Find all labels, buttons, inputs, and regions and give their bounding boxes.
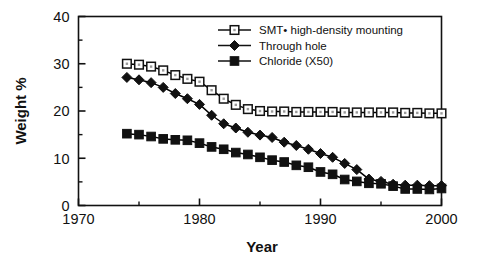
x-tick-label: 1980 <box>183 211 215 227</box>
data-point-marker <box>231 123 241 133</box>
data-point-marker <box>413 185 422 194</box>
data-point-marker-center <box>174 74 176 76</box>
x-tick-label: 1990 <box>304 211 336 227</box>
data-point-marker <box>219 119 229 129</box>
data-point-marker <box>182 94 192 104</box>
y-tick-label: 10 <box>53 151 69 167</box>
data-point-marker <box>316 149 326 159</box>
data-point-marker-center <box>283 110 285 112</box>
series-2 <box>122 72 447 190</box>
data-point-marker-center <box>138 63 140 65</box>
x-tick-label: 1970 <box>62 211 94 227</box>
data-point-marker-center <box>295 111 297 113</box>
y-axis-title: Weight % <box>12 77 29 144</box>
data-point-marker <box>401 185 410 194</box>
data-point-marker <box>353 177 362 186</box>
data-point-marker <box>146 78 156 88</box>
data-point-marker <box>340 175 349 184</box>
data-point-marker <box>291 140 301 150</box>
data-point-marker <box>279 137 289 147</box>
data-point-marker-center <box>344 111 346 113</box>
data-point-marker-center <box>331 111 333 113</box>
data-point-marker-center <box>368 111 370 113</box>
data-point-marker <box>268 156 277 165</box>
data-point-marker <box>244 150 253 159</box>
data-point-marker-center <box>392 111 394 113</box>
data-point-marker-center <box>150 65 152 67</box>
x-tick-label: 2000 <box>425 211 457 227</box>
legend-label: SMT• high-density mounting <box>259 24 403 36</box>
data-point-marker-center <box>198 81 200 83</box>
data-point-marker <box>425 185 434 194</box>
data-point-marker <box>171 136 180 145</box>
data-point-marker <box>159 135 168 144</box>
data-point-marker <box>267 132 277 142</box>
data-point-marker <box>158 82 168 92</box>
y-tick-label: 30 <box>53 56 69 72</box>
data-point-marker <box>135 130 144 139</box>
data-point-marker <box>183 136 192 145</box>
legend-label: Through hole <box>259 40 327 52</box>
data-point-marker <box>389 182 398 191</box>
data-point-marker <box>292 161 301 170</box>
data-point-marker-center <box>319 111 321 113</box>
data-point-marker <box>280 158 289 167</box>
data-point-marker <box>243 127 253 137</box>
legend-label: Chloride (X50) <box>259 55 333 67</box>
data-point-marker <box>377 179 386 188</box>
data-point-marker <box>256 153 265 162</box>
data-point-marker <box>207 143 216 152</box>
data-point-marker <box>255 130 265 140</box>
data-point-marker <box>219 145 228 154</box>
data-point-marker-center <box>416 112 418 114</box>
data-point-marker-center <box>223 98 225 100</box>
data-point-marker <box>134 75 144 85</box>
data-point-marker <box>304 163 313 172</box>
legend-marker <box>230 57 239 66</box>
data-point-marker <box>437 184 446 193</box>
data-point-marker <box>340 158 350 168</box>
data-point-marker-center <box>380 111 382 113</box>
data-point-marker <box>365 179 374 188</box>
data-point-marker <box>195 139 204 148</box>
chart-container: 0102030401970198019902000YearWeight %SMT… <box>0 0 479 258</box>
y-tick-label: 20 <box>53 103 69 119</box>
data-point-marker-center <box>162 69 164 71</box>
data-point-marker-center <box>307 111 309 113</box>
data-point-marker <box>122 72 132 82</box>
data-point-marker <box>303 144 313 154</box>
data-point-marker <box>232 148 241 157</box>
data-point-marker-center <box>126 63 128 65</box>
data-point-marker <box>123 129 132 138</box>
data-point-marker-center <box>247 108 249 110</box>
data-point-marker-center <box>356 111 358 113</box>
data-point-marker <box>328 170 337 179</box>
data-point-marker-center <box>259 110 261 112</box>
weight-percent-line-chart: 0102030401970198019902000YearWeight %SMT… <box>0 0 479 258</box>
legend-item[interactable]: Through hole <box>218 40 327 52</box>
data-point-marker <box>316 168 325 177</box>
data-point-marker <box>328 152 338 162</box>
legend-marker <box>230 41 240 51</box>
x-axis-title: Year <box>246 238 278 255</box>
data-point-marker-center <box>428 112 430 114</box>
data-point-marker-center <box>186 78 188 80</box>
y-tick-label: 40 <box>53 9 69 25</box>
data-point-marker-center <box>210 89 212 91</box>
data-point-marker-center <box>235 104 237 106</box>
legend-item[interactable]: SMT• high-density mounting <box>218 24 403 36</box>
data-point-marker-center <box>404 112 406 114</box>
data-point-marker <box>170 89 180 99</box>
legend-item[interactable]: Chloride (X50) <box>218 55 333 67</box>
legend-marker-center <box>233 29 235 31</box>
data-point-marker-center <box>271 110 273 112</box>
series-1 <box>123 59 446 117</box>
data-point-marker <box>147 132 156 141</box>
data-point-marker-center <box>440 112 442 114</box>
